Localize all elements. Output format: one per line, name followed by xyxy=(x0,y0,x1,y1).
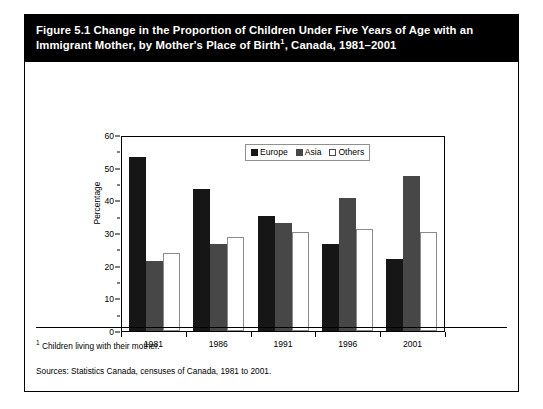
legend-item-europe: Europe xyxy=(251,147,288,157)
bar-asia-1991 xyxy=(275,223,292,331)
y-tick-label: 60 xyxy=(104,131,114,141)
legend-swatch-asia xyxy=(296,149,303,156)
legend-swatch-others xyxy=(329,149,336,156)
y-tick-mark xyxy=(117,250,120,251)
bar-europe-1991 xyxy=(258,216,275,331)
legend-swatch-europe xyxy=(251,149,258,156)
legend-label: Europe xyxy=(260,147,288,157)
bar-group-1991 xyxy=(251,137,315,331)
y-tick-mark xyxy=(115,168,120,169)
figure-notes: 1 Children living with their mother. Sou… xyxy=(25,327,518,390)
bar-others-2001 xyxy=(420,232,437,331)
bar-europe-1996 xyxy=(322,244,339,331)
y-tick-mark xyxy=(115,266,120,267)
bar-group-1981 xyxy=(122,137,186,331)
y-tick-mark xyxy=(117,152,120,153)
bar-europe-2001 xyxy=(386,259,403,331)
bar-others-1996 xyxy=(356,229,373,331)
bar-group-1986 xyxy=(186,137,250,331)
legend-label: Asia xyxy=(305,147,322,157)
y-tick-mark xyxy=(117,315,120,316)
footnote-text: Children living with their mother. xyxy=(42,341,160,351)
bar-others-1991 xyxy=(292,232,309,331)
footnote-marker: 1 xyxy=(36,339,40,346)
bar-asia-1986 xyxy=(210,244,227,331)
legend-item-others: Others xyxy=(329,147,364,157)
legend-label: Others xyxy=(338,147,364,157)
y-tick-mark xyxy=(117,185,120,186)
y-tick-mark xyxy=(115,299,120,300)
figure-title-line-1: Figure 5.1 Change in the Proportion of C… xyxy=(36,23,507,38)
bar-europe-1986 xyxy=(193,189,210,331)
y-tick-label: 40 xyxy=(104,196,114,206)
bar-asia-1981 xyxy=(146,261,163,331)
bar-group-2001 xyxy=(380,137,444,331)
y-axis-title: Percentage xyxy=(92,143,102,263)
sources-note: Sources: Statistics Canada, censuses of … xyxy=(36,365,507,377)
y-tick-label: 20 xyxy=(104,262,114,272)
y-tick-label: 30 xyxy=(104,229,114,239)
bar-others-1981 xyxy=(163,253,180,331)
chart-legend: EuropeAsiaOthers xyxy=(245,144,370,161)
y-tick-mark xyxy=(117,283,120,284)
figure-title-bar: Figure 5.1 Change in the Proportion of C… xyxy=(25,15,518,62)
y-tick-label: 50 xyxy=(104,164,114,174)
bar-europe-1981 xyxy=(129,157,146,331)
notes-divider xyxy=(36,327,507,328)
figure-title-line-2-text: Immigrant Mother, by Mother's Place of B… xyxy=(36,39,280,51)
chart-plot: Percentage 0102030405060 198119861991199… xyxy=(121,136,445,332)
bar-asia-2001 xyxy=(403,176,420,331)
y-tick-label: 10 xyxy=(104,294,114,304)
footnote: 1 Children living with their mother. xyxy=(36,340,507,352)
figure-title-line-2: Immigrant Mother, by Mother's Place of B… xyxy=(36,38,507,53)
bar-asia-1996 xyxy=(339,198,356,331)
legend-item-asia: Asia xyxy=(296,147,322,157)
figure-container: Figure 5.1 Change in the Proportion of C… xyxy=(24,14,519,392)
bar-others-1986 xyxy=(227,237,244,331)
y-tick-mark xyxy=(115,136,120,137)
y-tick-mark xyxy=(117,217,120,218)
figure-title-line-2-suffix: , Canada, 1981–2001 xyxy=(285,39,397,51)
chart-region: Percentage 0102030405060 198119861991199… xyxy=(25,62,518,317)
bars-layer xyxy=(122,137,444,331)
y-tick-mark xyxy=(115,234,120,235)
y-tick-mark xyxy=(115,201,120,202)
bar-group-1996 xyxy=(315,137,379,331)
